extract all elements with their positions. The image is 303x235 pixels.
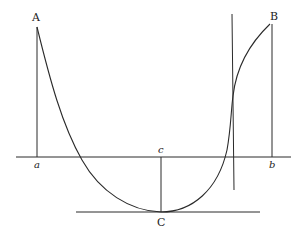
diagram-canvas: A B C a b c: [0, 0, 303, 235]
label-a: a: [34, 159, 40, 170]
label-C: C: [157, 216, 165, 229]
label-c: c: [158, 144, 164, 155]
label-B: B: [270, 10, 278, 23]
label-b: b: [269, 159, 275, 170]
label-A: A: [31, 11, 41, 24]
curve-acb: [37, 24, 270, 212]
